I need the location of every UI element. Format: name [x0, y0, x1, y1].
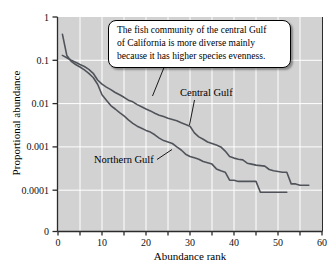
- y-tick-label: 1: [44, 12, 49, 23]
- rank-abundance-figure: 010203040506010.10.010.0010.00010 The fi…: [0, 0, 336, 272]
- x-tick-label: 50: [273, 237, 283, 248]
- x-tick-label: 40: [229, 237, 239, 248]
- x-tick-label: 10: [97, 237, 107, 248]
- northern-gulf-label: Northern Gulf: [94, 154, 154, 165]
- x-tick-label: 30: [185, 237, 195, 248]
- y-tick-label: 0: [44, 226, 49, 237]
- callout-text-line: of California is more diverse mainly: [117, 37, 283, 50]
- x-tick-label: 0: [56, 237, 61, 248]
- y-tick-label: 0.1: [37, 55, 50, 66]
- y-tick-label: 0.0001: [22, 185, 50, 196]
- y-tick-label: 0.001: [27, 141, 50, 152]
- central-gulf-label: Central Gulf: [180, 87, 233, 98]
- x-axis-title: Abundance rank: [58, 250, 322, 262]
- callout-text-line: because it has higher species evenness.: [117, 50, 283, 63]
- callout-box: The fish community of the central Gulf o…: [108, 20, 291, 68]
- y-tick-label: 0.01: [32, 98, 50, 109]
- x-tick-label: 20: [141, 237, 151, 248]
- x-tick-label: 60: [317, 237, 327, 248]
- y-axis-title: Proportional abundance: [10, 62, 22, 184]
- callout-text-line: The fish community of the central Gulf: [117, 24, 283, 37]
